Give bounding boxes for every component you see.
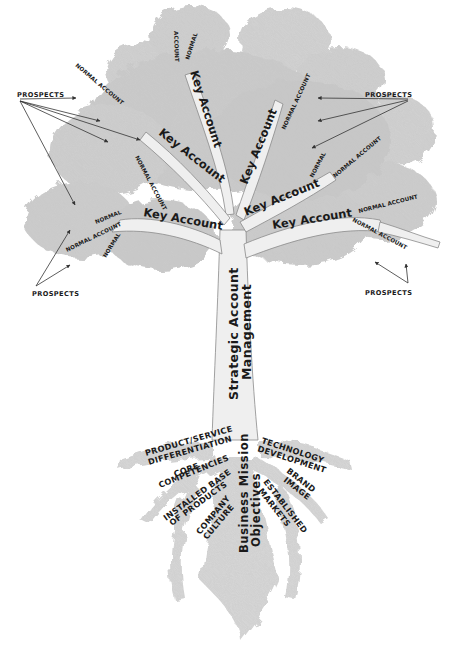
prospects-label-bottom-left: PROSPECTS (32, 290, 79, 298)
trunk-label-line2: Management (239, 284, 254, 380)
taproot-label-line2: Objectives (249, 473, 263, 547)
account-tree-diagram: PROSPECTS PROSPECTS PROSPECTS PROSPECTS … (0, 0, 455, 653)
account-label-top: ACCOUNT (173, 31, 180, 62)
prospects-label-top-left: PROSPECTS (17, 91, 64, 99)
prospects-label-top-right: PROSPECTS (365, 91, 412, 99)
prospects-label-bottom-right: PROSPECTS (365, 289, 412, 297)
